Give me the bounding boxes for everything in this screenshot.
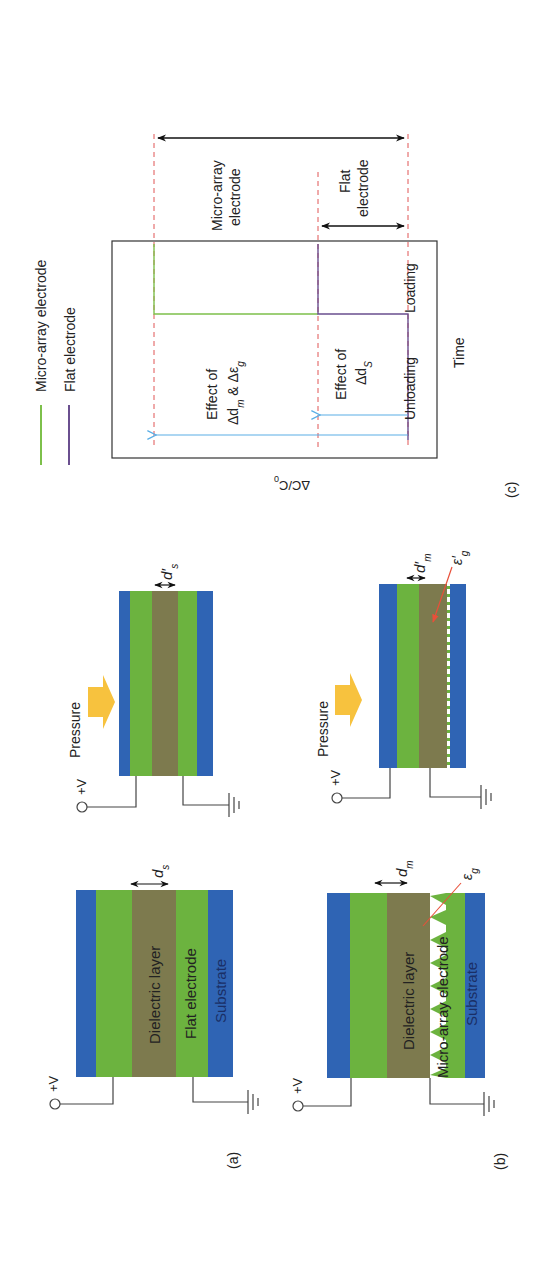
- panel-a-pressed: Pressure +V d′s: [67, 564, 239, 817]
- panel-a-label: (a): [225, 1152, 241, 1169]
- panel-c: Micro-array electrode Flat electrode Mic…: [33, 134, 519, 498]
- panel-b-pressed: Pressure +V d′m ε′g: [315, 550, 491, 809]
- flat-range-label-2: electrode: [355, 159, 371, 217]
- gap-label: ds: [149, 865, 171, 878]
- ground-icon: [481, 785, 491, 809]
- y-axis-label: ΔC/C0: [274, 474, 310, 493]
- ground-icon: [484, 1092, 494, 1116]
- layer-label-dielectric: Dielectric layer: [146, 946, 163, 1044]
- wire: [87, 776, 136, 807]
- wire: [193, 1077, 248, 1102]
- wire: [60, 1077, 113, 1104]
- micro-range-label-1: Micro-array: [209, 160, 225, 231]
- layer-label-flat-electrode: Flat electrode: [182, 948, 199, 1039]
- voltage-terminal-icon: [293, 1101, 303, 1111]
- wire: [342, 768, 390, 798]
- voltage-label: +V: [328, 769, 343, 786]
- ground-icon: [248, 1090, 258, 1114]
- micro-effect-label-1: Effect of: [204, 369, 220, 420]
- layer-label-substrate: Substrate: [463, 962, 480, 1026]
- voltage-label: +V: [290, 1077, 305, 1094]
- eps-label: εg: [459, 868, 480, 880]
- pressure-label: Pressure: [67, 702, 83, 758]
- voltage-label: +V: [46, 1075, 61, 1092]
- gap-label: d′m: [411, 554, 433, 574]
- figure: Micro-array electrode Flat electrode Mic…: [0, 0, 545, 1282]
- chart-frame: [112, 241, 437, 458]
- pressure-arrow-icon: [88, 675, 115, 729]
- wire: [183, 776, 229, 805]
- micro-array-trace: [154, 244, 318, 314]
- eps-label: ε′g: [449, 550, 470, 565]
- ground-icon: [229, 793, 239, 817]
- gap-label: d′s: [158, 564, 180, 580]
- voltage-label: +V: [74, 778, 89, 795]
- panel-a: Dielectric layer Flat electrode Substrat…: [46, 865, 258, 1169]
- legend: Micro-array electrode Flat electrode: [33, 260, 78, 465]
- wire: [430, 768, 481, 797]
- voltage-terminal-icon: [77, 802, 87, 812]
- flat-effect-label-1: Effect of: [333, 349, 349, 400]
- wire: [430, 1078, 484, 1104]
- voltage-terminal-icon: [332, 793, 342, 803]
- x-axis-label: Time: [451, 337, 467, 368]
- phase-loading-label: Loading: [402, 263, 418, 313]
- micro-effect-label-2: Δdm & Δεg: [225, 361, 246, 425]
- legend-flat-label: Flat electrode: [62, 307, 78, 392]
- pressure-arrow-icon: [335, 673, 362, 727]
- layer-label-dielectric: Dielectric layer: [400, 952, 417, 1050]
- wire: [303, 1078, 351, 1106]
- panel-c-label: (c): [503, 482, 519, 498]
- gap-label: dm: [393, 860, 415, 877]
- voltage-terminal-icon: [50, 1099, 60, 1109]
- micro-range-label-2: electrode: [227, 168, 243, 226]
- flat-range-label-1: Flat: [337, 170, 353, 193]
- layer-label-substrate: Substrate: [212, 959, 229, 1023]
- flat-trace: [318, 244, 408, 440]
- layer-label-micro-array-electrode: Micro-array electrode: [434, 936, 451, 1078]
- panel-b: Dielectric layer Micro-array electrode S…: [290, 860, 508, 1170]
- phase-unloading-label: Unloading: [402, 357, 418, 420]
- panel-b-label: (b): [492, 1153, 508, 1170]
- pressure-label: Pressure: [315, 701, 331, 757]
- legend-micro-array-label: Micro-array electrode: [33, 260, 49, 392]
- flat-effect-label-2: ΔdS: [353, 361, 374, 385]
